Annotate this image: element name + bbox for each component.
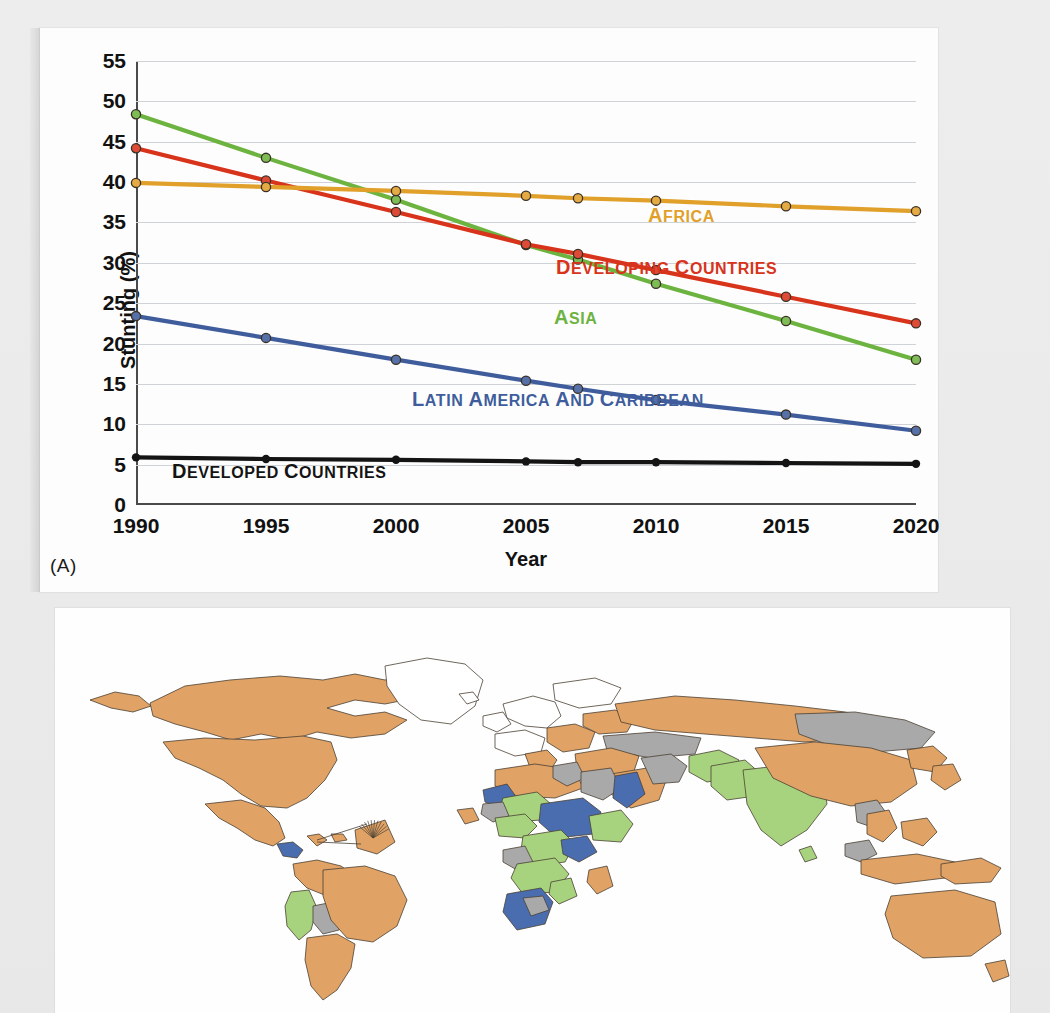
- series-label: DEVELOPING COUNTRIES: [556, 256, 777, 279]
- data-point: [911, 319, 920, 328]
- data-point: [261, 182, 270, 191]
- map-country-canada: [150, 674, 427, 740]
- y-tick-label: 10: [103, 412, 126, 436]
- data-point: [132, 453, 140, 461]
- data-point: [131, 178, 140, 187]
- x-tick-label: 1990: [113, 514, 160, 538]
- y-tick-label: 30: [103, 251, 126, 275]
- series-lines: [136, 61, 916, 505]
- data-point: [391, 195, 400, 204]
- data-point: [521, 376, 530, 385]
- data-point: [781, 292, 790, 301]
- panel-b-map-card: [55, 608, 1010, 1013]
- data-point: [131, 311, 140, 320]
- x-tick-label: 2020: [893, 514, 940, 538]
- y-tick-label: 25: [103, 291, 126, 315]
- y-tick-label: 50: [103, 89, 126, 113]
- data-point: [911, 355, 920, 364]
- data-point: [391, 186, 400, 195]
- map-country-argentina-chile: [305, 934, 355, 1000]
- data-point: [651, 279, 660, 288]
- map-country-greenland: [385, 658, 483, 724]
- series-label: AFRICA: [648, 204, 715, 227]
- map-country-sri-lanka: [799, 846, 817, 862]
- map-country-ethiopia: [589, 810, 633, 842]
- series-line: [136, 316, 916, 431]
- data-point: [521, 240, 530, 249]
- panel-a-chart-card: Stunting (%) Year 0510152025303540455055…: [40, 28, 938, 592]
- map-country-new-zealand: [985, 960, 1009, 982]
- data-point: [781, 202, 790, 211]
- map-country-cape-verde-atl: [457, 808, 479, 824]
- map-country-hispaniola: [331, 834, 347, 842]
- series-line: [136, 148, 916, 323]
- map-country-mozambique: [549, 878, 577, 904]
- y-tick-label: 20: [103, 332, 126, 356]
- x-tick-label: 1995: [243, 514, 290, 538]
- x-tick-label: 2005: [503, 514, 550, 538]
- map-country-north-russia: [553, 678, 621, 708]
- data-point: [391, 355, 400, 364]
- map-country-alaska: [90, 692, 151, 712]
- data-point: [522, 457, 530, 465]
- data-point: [652, 458, 660, 466]
- data-point: [391, 207, 400, 216]
- data-point: [261, 333, 270, 342]
- x-tick-label: 2000: [373, 514, 420, 538]
- data-point: [912, 460, 920, 468]
- map-country-japan: [931, 764, 961, 790]
- x-tick-label: 2015: [763, 514, 810, 538]
- x-tick-label: 2010: [633, 514, 680, 538]
- y-tick-label: 35: [103, 210, 126, 234]
- map-country-peru-ecuador: [285, 890, 317, 940]
- map-country-philippines: [901, 818, 937, 846]
- plot-area: 0510152025303540455055 19901995200020052…: [136, 61, 916, 505]
- y-tick-label: 45: [103, 130, 126, 154]
- map-country-madagascar: [587, 866, 613, 894]
- y-tick-label: 55: [103, 49, 126, 73]
- data-point: [261, 153, 270, 162]
- series-label: LATIN AMERICA AND CARIBBEAN: [412, 388, 704, 411]
- world-map: [55, 608, 1010, 1013]
- data-point: [574, 458, 582, 466]
- data-point: [781, 410, 790, 419]
- map-country-australia: [885, 890, 1001, 958]
- data-point: [521, 191, 530, 200]
- panel-a-label: (A): [50, 555, 77, 577]
- data-point: [131, 144, 140, 153]
- map-country-vietnam: [867, 810, 897, 842]
- data-point: [782, 459, 790, 467]
- data-point: [131, 110, 140, 119]
- map-country-united-states: [163, 736, 337, 808]
- map-country-scandinavia: [503, 696, 561, 728]
- data-point: [573, 194, 582, 203]
- data-point: [781, 316, 790, 325]
- y-tick-label: 15: [103, 372, 126, 396]
- map-country-central-america: [277, 842, 303, 858]
- x-axis-title: Year: [136, 548, 916, 571]
- series-line: [136, 114, 916, 359]
- data-point: [911, 207, 920, 216]
- data-point: [911, 426, 920, 435]
- y-tick-label: 40: [103, 170, 126, 194]
- series-label: ASIA: [554, 306, 598, 329]
- y-tick-label: 5: [114, 453, 126, 477]
- series-label: DEVELOPED COUNTRIES: [172, 460, 387, 483]
- data-point: [392, 456, 400, 464]
